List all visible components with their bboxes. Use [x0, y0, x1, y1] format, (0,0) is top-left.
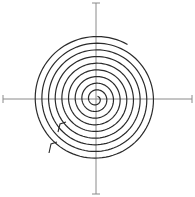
hook-marks	[49, 122, 66, 153]
spiral-diagram	[0, 0, 195, 197]
spiral-curve	[35, 37, 153, 159]
axes	[3, 3, 192, 194]
